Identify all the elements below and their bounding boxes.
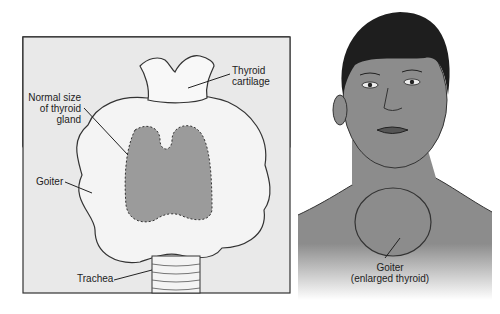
label-normal-size: Normal size of thyroid gland xyxy=(26,92,81,125)
goiter-bulge xyxy=(355,188,431,256)
person-figure xyxy=(298,12,492,300)
label-goiter-enlarged: Goiter (enlarged thyroid) xyxy=(330,262,450,284)
label-trachea: Trachea xyxy=(77,273,113,284)
label-thyroid-cartilage: Thyroid cartilage xyxy=(232,65,270,87)
label-goiter: Goiter xyxy=(36,176,63,187)
trachea xyxy=(152,256,200,293)
